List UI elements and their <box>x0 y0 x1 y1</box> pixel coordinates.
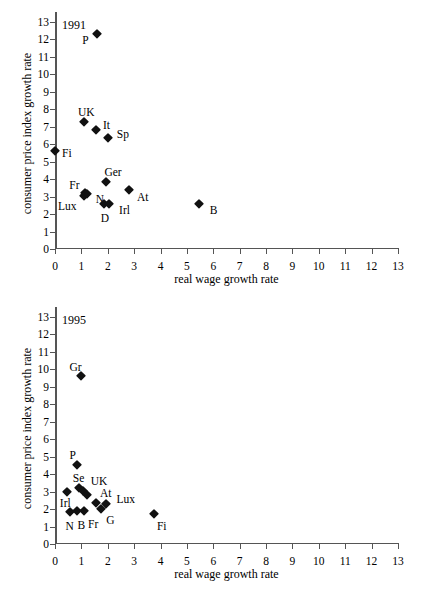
data-point-label: Fr <box>88 518 98 530</box>
y-axis-tick-label: 9 <box>31 86 49 98</box>
x-axis-tick-label: 9 <box>282 260 302 272</box>
y-axis-tick <box>50 369 55 370</box>
x-axis-tick <box>187 544 188 549</box>
y-axis-tick <box>50 127 55 128</box>
y-axis-tick-label: 2 <box>31 208 49 220</box>
y-axis-tick-label: 2 <box>31 503 49 515</box>
y-axis-tick-label: 3 <box>31 486 49 498</box>
y-axis-tick <box>50 457 55 458</box>
x-axis-tick <box>292 544 293 549</box>
y-axis-tick-label: 8 <box>31 103 49 115</box>
y-axis-tick-label: 10 <box>31 363 49 375</box>
x-axis-tick <box>161 249 162 254</box>
x-axis-tick <box>213 544 214 549</box>
y-axis-tick <box>50 57 55 58</box>
y-axis-title-wrap: consumer price index growth rate <box>0 295 14 590</box>
y-axis-tick <box>50 214 55 215</box>
data-point-label: B <box>210 204 218 216</box>
x-axis-tick <box>345 249 346 254</box>
y-axis-tick-label: 6 <box>31 433 49 445</box>
x-axis-title: real wage growth rate <box>55 272 398 287</box>
y-axis-tick <box>50 179 55 180</box>
x-axis-tick-label: 13 <box>388 260 408 272</box>
x-axis-tick-label: 4 <box>151 260 171 272</box>
y-axis-tick-label: 10 <box>31 68 49 80</box>
data-point-label: At <box>100 487 112 499</box>
y-axis-tick-label: 8 <box>31 398 49 410</box>
y-axis-title-wrap: consumer price index growth rate <box>0 0 14 295</box>
y-axis-tick <box>50 474 55 475</box>
x-axis-tick <box>292 249 293 254</box>
x-axis-tick-label: 8 <box>256 260 276 272</box>
y-axis-tick-label: 4 <box>31 468 49 480</box>
y-axis-tick-label: 5 <box>31 451 49 463</box>
data-point-label: Gr <box>69 361 81 373</box>
data-point-marker <box>194 199 204 209</box>
y-axis-tick-label: 1 <box>31 226 49 238</box>
data-point-label: B <box>77 519 85 531</box>
y-axis-line <box>55 12 57 249</box>
x-axis-tick <box>372 544 373 549</box>
y-axis-tick <box>50 509 55 510</box>
x-axis-tick <box>81 544 82 549</box>
x-axis-tick <box>55 249 56 254</box>
data-point-marker <box>103 133 113 143</box>
x-axis-tick-label: 5 <box>177 555 197 567</box>
x-axis-tick-label: 5 <box>177 260 197 272</box>
x-axis-tick <box>108 249 109 254</box>
y-axis-tick-label: 11 <box>31 346 49 358</box>
data-point-label: P <box>69 449 75 461</box>
data-point-marker <box>50 146 60 156</box>
y-axis-tick <box>50 404 55 405</box>
y-axis-tick-label: 12 <box>31 33 49 45</box>
y-axis-tick <box>50 492 55 493</box>
data-point-label: Fi <box>62 147 72 159</box>
x-axis-tick <box>266 544 267 549</box>
data-point-label: UK <box>78 106 95 118</box>
data-point-label: P <box>82 34 88 46</box>
x-axis-tick-label: 13 <box>388 555 408 567</box>
data-point-label: Lux <box>58 200 77 212</box>
y-axis-tick <box>50 334 55 335</box>
data-point-marker <box>149 509 159 519</box>
y-axis-line <box>55 307 57 544</box>
x-axis-tick-label: 7 <box>230 260 250 272</box>
data-point-label: At <box>137 191 149 203</box>
data-point-marker <box>79 116 89 126</box>
y-axis-tick <box>50 439 55 440</box>
y-axis-tick-label: 0 <box>31 538 49 550</box>
x-axis-tick-label: 1 <box>71 260 91 272</box>
x-axis-tick-label: 4 <box>151 555 171 567</box>
x-axis-tick <box>108 544 109 549</box>
data-point-marker <box>62 487 72 497</box>
y-axis-tick <box>50 22 55 23</box>
y-axis-tick <box>50 544 55 545</box>
data-point-marker <box>91 125 101 135</box>
x-axis-tick <box>266 249 267 254</box>
y-axis-tick <box>50 317 55 318</box>
data-point-label: Ger <box>104 166 121 178</box>
y-axis-tick-label: 9 <box>31 381 49 393</box>
data-point-label: UK <box>91 475 108 487</box>
y-axis-tick <box>50 74 55 75</box>
y-axis-tick <box>50 197 55 198</box>
data-point-label: Fi <box>157 520 167 532</box>
x-axis-tick-label: 10 <box>309 555 329 567</box>
y-axis-tick <box>50 352 55 353</box>
x-axis-tick-label: 3 <box>124 260 144 272</box>
y-axis-tick-label: 3 <box>31 191 49 203</box>
data-point-label: Fr <box>69 179 79 191</box>
x-axis-title: real wage growth rate <box>55 567 398 582</box>
x-axis-tick <box>398 544 399 549</box>
x-axis-tick <box>134 249 135 254</box>
y-axis-tick-label: 5 <box>31 156 49 168</box>
x-axis-tick <box>161 544 162 549</box>
x-axis-line <box>55 543 399 545</box>
y-axis-tick-label: 12 <box>31 328 49 340</box>
x-axis-tick <box>240 544 241 549</box>
data-point-marker <box>92 29 102 39</box>
x-axis-tick-label: 10 <box>309 260 329 272</box>
data-point-label: Irl <box>119 204 130 216</box>
x-axis-tick-label: 12 <box>362 555 382 567</box>
x-axis-tick-label: 0 <box>45 260 65 272</box>
